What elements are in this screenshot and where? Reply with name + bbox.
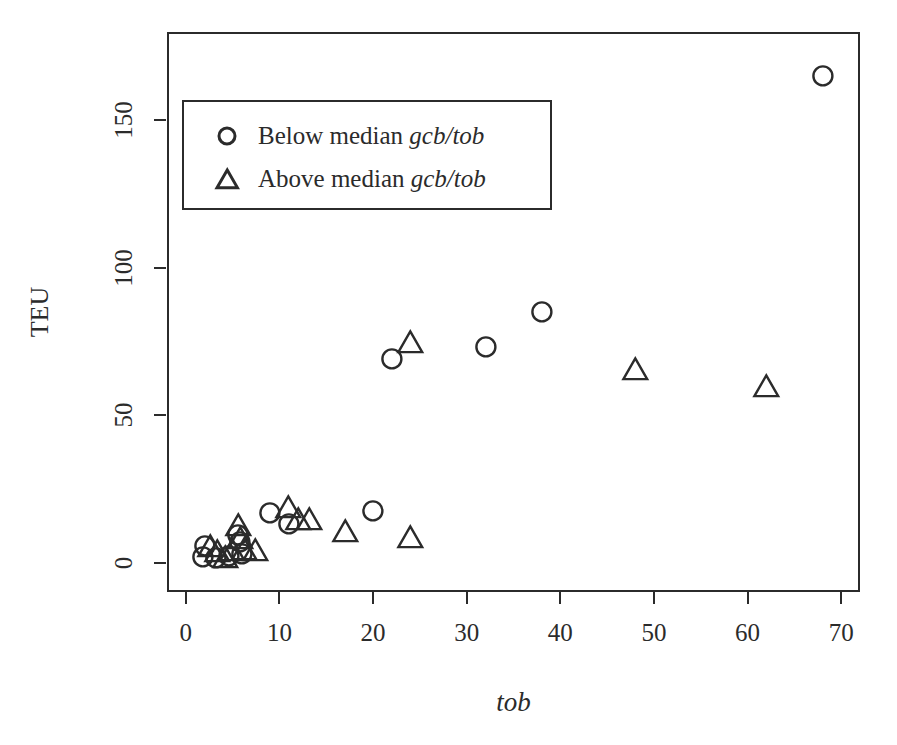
y-axis-tick: [154, 119, 166, 121]
legend-entry-label: Above median gcb/tob: [258, 165, 486, 193]
legend-label-prefix: Below median: [258, 122, 409, 149]
data-point-triangle: [396, 524, 425, 549]
x-axis-tick-label: 0: [179, 620, 192, 645]
x-axis-tick: [747, 592, 749, 604]
legend-box: Below median gcb/tobAbove median gcb/tob: [182, 100, 552, 210]
x-axis-tick: [559, 592, 561, 604]
y-axis-tick-label: 0: [111, 556, 136, 569]
legend-triangle-icon: [210, 167, 244, 191]
data-point-triangle: [621, 356, 650, 381]
data-point-triangle: [295, 506, 324, 531]
x-axis-tick-label: 30: [454, 620, 479, 645]
y-axis-tick-label: 100: [111, 249, 136, 287]
data-point-circle: [474, 335, 498, 359]
data-point-circle: [361, 499, 385, 523]
legend-entry[interactable]: Above median gcb/tob: [210, 165, 486, 193]
x-axis-tick: [466, 592, 468, 604]
x-axis-title: tob: [496, 687, 531, 718]
x-axis-tick-label: 10: [267, 620, 292, 645]
x-axis-tick: [278, 592, 280, 604]
y-axis-tick: [154, 562, 166, 564]
data-point-triangle: [241, 537, 270, 562]
x-axis-tick-label: 20: [361, 620, 386, 645]
data-point-circle: [530, 300, 554, 324]
legend-entry-label: Below median gcb/tob: [258, 122, 484, 150]
x-axis-tick: [653, 592, 655, 604]
data-point-triangle: [331, 518, 360, 543]
x-axis-tick: [372, 592, 374, 604]
legend-circle-icon: [210, 125, 244, 147]
legend-entry[interactable]: Below median gcb/tob: [210, 122, 484, 150]
x-axis-tick-label: 40: [548, 620, 573, 645]
x-axis-tick: [185, 592, 187, 604]
legend-label-variable: gcb/tob: [411, 165, 486, 192]
legend-label-variable: gcb/tob: [409, 122, 484, 149]
x-axis-tick-label: 70: [829, 620, 854, 645]
y-axis-tick: [154, 267, 166, 269]
data-point-triangle: [752, 373, 781, 398]
y-axis-tick-label: 150: [111, 102, 136, 140]
data-point-circle: [811, 64, 835, 88]
y-axis-title: TEU: [25, 287, 55, 338]
x-axis-tick-label: 60: [735, 620, 760, 645]
scatter-plot-figure: 010203040506070050100150 tob TEU Below m…: [0, 0, 897, 745]
data-point-triangle: [396, 329, 425, 354]
x-axis-tick-label: 50: [641, 620, 666, 645]
y-axis-tick-label: 50: [111, 403, 136, 428]
legend-label-prefix: Above median: [258, 165, 411, 192]
x-axis-tick: [840, 592, 842, 604]
y-axis-tick: [154, 414, 166, 416]
